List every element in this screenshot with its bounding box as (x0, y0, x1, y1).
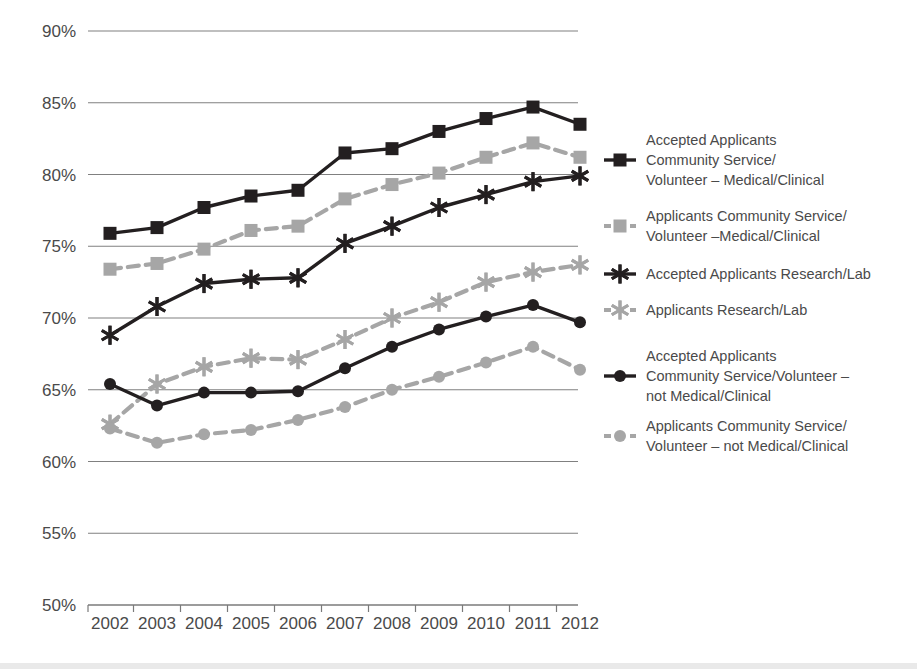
y-tick-label: 75% (42, 237, 76, 256)
data-point (339, 362, 351, 374)
legend-label: Volunteer –Medical/Clinical (646, 228, 820, 244)
data-point (104, 227, 117, 240)
legend-item-6[interactable]: Applicants Community Service/Volunteer –… (604, 418, 848, 454)
legend-label: Accepted Applicants (646, 132, 777, 148)
data-point (198, 243, 211, 256)
x-tick-label: 2010 (467, 614, 505, 633)
data-point (104, 263, 117, 276)
data-point (433, 167, 446, 180)
y-tick-label: 50% (42, 596, 76, 615)
data-point (198, 428, 210, 440)
line-chart: 50%55%60%65%70%75%80%85%90% 200220032004… (0, 0, 917, 669)
data-point (574, 118, 587, 131)
legend-label: Volunteer – Medical/Clinical (646, 172, 824, 188)
x-tick-label: 2008 (373, 614, 411, 633)
data-point (104, 378, 116, 390)
data-point (527, 101, 540, 114)
chart-figure: 50%55%60%65%70%75%80%85%90% 200220032004… (0, 0, 917, 669)
data-point (151, 221, 164, 234)
data-point (198, 201, 211, 214)
data-point (574, 316, 586, 328)
legend-label: Accepted Applicants Research/Lab (646, 266, 871, 282)
legend-label: Applicants Research/Lab (646, 302, 807, 318)
data-point (151, 257, 164, 270)
legend-label: Applicants Community Service/ (646, 208, 848, 224)
data-point (292, 414, 304, 426)
x-tick-label: 2002 (91, 614, 129, 633)
legend-label: Applicants Community Service/ (646, 418, 848, 434)
x-axis-tick-labels: 2002200320042005200620072008200920102011… (91, 614, 599, 633)
legend-label: Volunteer – not Medical/Clinical (646, 438, 848, 454)
y-tick-label: 65% (42, 381, 76, 400)
series-line (110, 347, 580, 443)
data-point (480, 311, 492, 323)
data-point (292, 220, 305, 233)
data-point (527, 341, 539, 353)
data-point (339, 192, 352, 205)
legend-item-1[interactable]: Accepted ApplicantsCommunity Service/Vol… (604, 132, 824, 188)
data-point (104, 422, 116, 434)
data-point (292, 385, 304, 397)
data-point (339, 401, 351, 413)
data-series-layer (102, 101, 588, 449)
data-point (151, 437, 163, 449)
legend-label: Community Service/ (646, 152, 777, 168)
gridlines (88, 31, 578, 605)
data-point (386, 142, 399, 155)
x-tick-label: 2004 (185, 614, 223, 633)
x-tick-label: 2007 (326, 614, 364, 633)
legend-swatch-marker (614, 370, 626, 382)
bottom-divider (0, 663, 917, 669)
data-point (151, 400, 163, 412)
data-point (386, 178, 399, 191)
y-tick-label: 55% (42, 524, 76, 543)
x-tick-label: 2011 (515, 614, 552, 633)
x-tick-label: 2009 (420, 614, 458, 633)
data-point (339, 146, 352, 159)
data-point (386, 341, 398, 353)
series-1 (104, 101, 587, 240)
y-tick-label: 70% (42, 309, 76, 328)
y-tick-label: 85% (42, 94, 76, 113)
x-tick-label: 2012 (561, 614, 599, 633)
x-tick-label: 2006 (279, 614, 317, 633)
data-point (480, 112, 493, 125)
data-point (245, 190, 258, 203)
legend-item-5[interactable]: Accepted ApplicantsCommunity Service/Vol… (604, 348, 850, 404)
x-tick-label: 2005 (232, 614, 270, 633)
legend-swatch-marker (614, 430, 626, 442)
data-point (198, 387, 210, 399)
series-6 (104, 341, 586, 449)
data-point (386, 384, 398, 396)
data-point (292, 184, 305, 197)
data-point (527, 136, 540, 149)
series-line (110, 107, 580, 233)
data-point (574, 151, 587, 164)
y-axis-tick-labels: 50%55%60%65%70%75%80%85%90% (42, 22, 76, 615)
legend-swatch-marker (614, 220, 627, 233)
data-point (574, 364, 586, 376)
legend-item-4[interactable]: Applicants Research/Lab (604, 301, 807, 320)
data-point (433, 125, 446, 138)
legend-item-3[interactable]: Accepted Applicants Research/Lab (604, 265, 871, 284)
y-tick-label: 90% (42, 22, 76, 41)
legend-label: Community Service/Volunteer – (646, 368, 850, 384)
x-tick-label: 2003 (138, 614, 176, 633)
legend-label: not Medical/Clinical (646, 388, 771, 404)
data-point (480, 151, 493, 164)
data-point (245, 224, 258, 237)
data-point (245, 424, 257, 436)
data-point (245, 387, 257, 399)
data-point (433, 323, 445, 335)
data-point (527, 299, 539, 311)
y-tick-label: 60% (42, 453, 76, 472)
data-point (480, 356, 492, 368)
y-tick-label: 80% (42, 166, 76, 185)
legend-swatch-marker (614, 154, 627, 167)
legend-item-2[interactable]: Applicants Community Service/Volunteer –… (604, 208, 848, 244)
x-axis (88, 605, 578, 612)
legend-label: Accepted Applicants (646, 348, 777, 364)
chart-legend: Accepted ApplicantsCommunity Service/Vol… (604, 132, 871, 454)
data-point (433, 371, 445, 383)
